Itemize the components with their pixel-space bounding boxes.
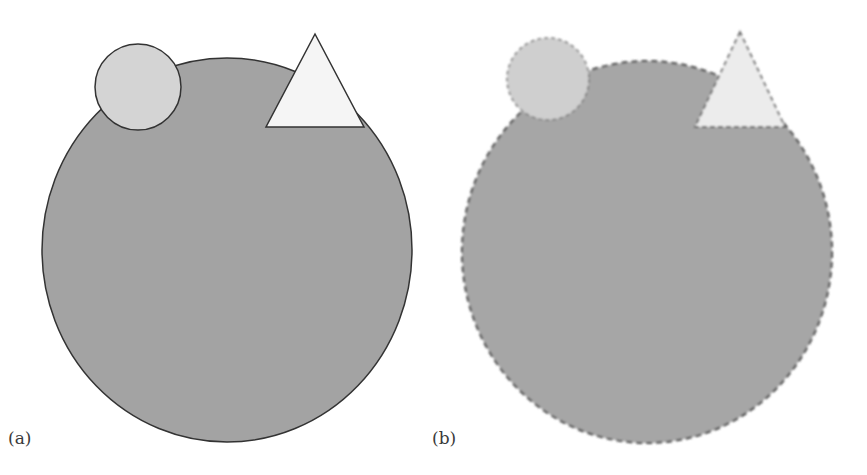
- small-circle: [95, 44, 181, 130]
- small-circle: [507, 38, 589, 120]
- panel-label-a: (a): [8, 428, 31, 448]
- panel-a: [42, 34, 412, 442]
- figure: [0, 0, 867, 475]
- panel-label-b: (b): [432, 428, 456, 448]
- panel-b: [462, 32, 832, 443]
